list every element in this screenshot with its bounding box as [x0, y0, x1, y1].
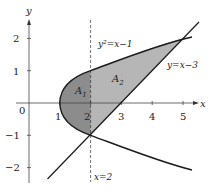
line-label: y=x−3: [166, 60, 198, 70]
area-diagram: y x 0 1 2 3 4 5 2 1 −1 −2 y²=x−1 y=x−3 x…: [0, 0, 217, 192]
vertical-line-label: x=2: [94, 172, 113, 182]
x-axis-label: x: [200, 98, 206, 109]
y-tick-label-1: 1: [13, 66, 19, 77]
x-axis-arrow-icon: [193, 101, 199, 105]
y-tick-label-2: 2: [13, 33, 19, 44]
x-tick-label-2: 2: [84, 111, 90, 122]
y-axis-arrow-icon: [27, 19, 31, 25]
y-axis-label: y: [25, 5, 32, 16]
x-tick-label-5: 5: [180, 111, 186, 122]
y-tick-label-neg2: −2: [5, 162, 20, 173]
origin-label: 0: [19, 105, 25, 116]
parabola-label: y²=x−1: [97, 39, 133, 49]
y-tick-label-neg1: −1: [5, 130, 20, 141]
x-tick-label-4: 4: [149, 111, 155, 122]
x-tick-label-1: 1: [55, 111, 61, 122]
x-tick-label-3: 3: [118, 111, 124, 122]
